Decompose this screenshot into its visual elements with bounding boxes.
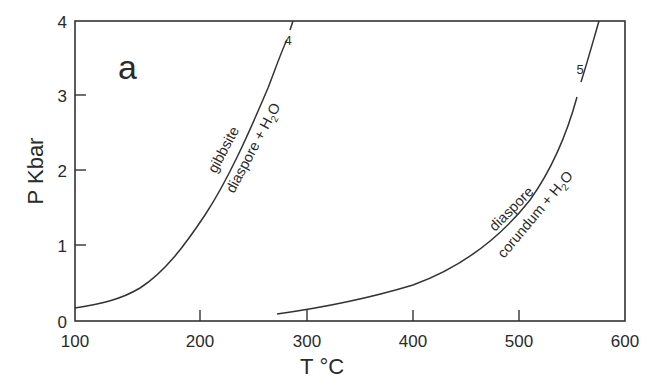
y-tick-label: 0 [58,313,67,332]
y-axis-tick-labels: 0 1 2 3 4 [58,13,67,332]
curve-5-number: 5 [576,62,583,77]
x-tick-label: 100 [61,332,89,351]
x-tick-label: 400 [399,332,427,351]
x-tick-label: 300 [293,332,321,351]
phase-diagram-chart: 0 1 2 3 4 100 200 300 400 500 600 T°C P … [0,0,670,392]
y-tick-label: 3 [58,87,67,106]
panel-label: a [118,48,137,86]
y-axis-title: P Kbar [23,138,48,205]
curve-4-gibbsite-diaspore [75,21,293,308]
x-axis-tick-labels: 100 200 300 400 500 600 [61,332,639,351]
x-tick-label: 200 [186,332,214,351]
x-axis-ticks [200,310,519,321]
x-tick-label: 600 [611,332,639,351]
curve-4-number: 4 [284,33,291,48]
y-tick-label: 1 [58,237,67,256]
y-axis-ticks [75,95,86,245]
x-axis-title: T°C [300,354,344,379]
x-tick-label: 500 [505,332,533,351]
y-tick-label: 2 [58,162,67,181]
curve-5-diaspore-corundum [277,21,599,314]
plot-frame [75,21,625,321]
y-tick-label: 4 [58,13,67,32]
